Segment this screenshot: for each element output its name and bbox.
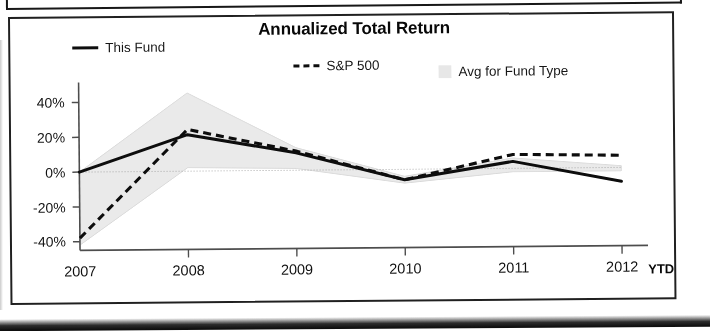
y-tick-label: 40%: [13, 95, 65, 111]
x-tick-label: 2007: [64, 263, 96, 279]
y-tick-label: 0%: [13, 164, 65, 180]
x-tick-label: 2011: [498, 259, 529, 275]
plot-area: 40%20%0%-20%-40% 20072008200920102011201…: [10, 13, 674, 303]
x-tick-label: 2009: [281, 261, 313, 277]
x-tick-label: 2012: [606, 259, 638, 275]
plot-svg: [10, 13, 674, 303]
y-tick-label: -20%: [14, 199, 66, 215]
panel-above-fragment: [6, 0, 682, 10]
y-tick-label: -40%: [14, 234, 66, 250]
y-tick-label: 20%: [13, 129, 65, 145]
annualized-total-return-panel: Annualized Total Return This Fund S&P 50…: [8, 11, 676, 305]
scan-edge-shadow-left: [0, 40, 3, 310]
x-tick-label: 2010: [389, 260, 421, 276]
x-tick-label: 2008: [172, 262, 204, 278]
ytd-annotation: YTD: [648, 261, 674, 276]
scan-edge-shadow-bottom: [0, 315, 710, 331]
